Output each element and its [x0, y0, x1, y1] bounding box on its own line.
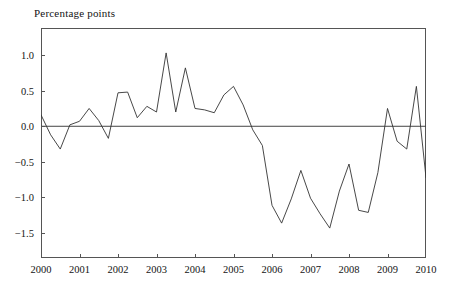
line-series-chart — [41, 28, 426, 258]
y-tick-mark — [41, 55, 45, 56]
y-tick-label: −1.5 — [15, 228, 34, 239]
x-tick-label: 2002 — [108, 264, 129, 275]
y-tick-label: 1.0 — [21, 50, 34, 61]
x-tick-mark — [349, 254, 350, 258]
x-tick-label: 2004 — [185, 264, 206, 275]
x-tick-mark — [195, 254, 196, 258]
chart-figure: Percentage points 1.00.50.0−0.5−1.0−1.5 … — [0, 0, 449, 292]
y-tick-label: 0.5 — [21, 85, 34, 96]
y-tick-label: −0.5 — [15, 156, 34, 167]
x-tick-label: 2008 — [339, 264, 360, 275]
y-axis-title: Percentage points — [34, 7, 115, 19]
y-tick-mark — [41, 197, 45, 198]
x-tick-label: 2007 — [300, 264, 321, 275]
y-tick-mark — [41, 162, 45, 163]
x-tick-mark — [272, 254, 273, 258]
x-tick-mark — [311, 254, 312, 258]
x-tick-label: 2005 — [223, 264, 244, 275]
x-tick-label: 2000 — [31, 264, 52, 275]
x-tick-label: 2003 — [146, 264, 167, 275]
data-line — [41, 53, 426, 228]
plot-area — [41, 28, 426, 258]
x-tick-mark — [80, 254, 81, 258]
x-tick-mark — [388, 254, 389, 258]
y-tick-label: −1.0 — [15, 192, 34, 203]
y-tick-mark — [41, 233, 45, 234]
y-tick-mark — [41, 91, 45, 92]
x-tick-mark — [157, 254, 158, 258]
x-tick-mark — [234, 254, 235, 258]
y-tick-label: 0.0 — [21, 121, 34, 132]
x-tick-label: 2010 — [416, 264, 437, 275]
x-tick-label: 2001 — [69, 264, 90, 275]
y-tick-mark — [41, 126, 45, 127]
x-tick-mark — [118, 254, 119, 258]
x-tick-label: 2009 — [377, 264, 398, 275]
x-tick-label: 2006 — [262, 264, 283, 275]
